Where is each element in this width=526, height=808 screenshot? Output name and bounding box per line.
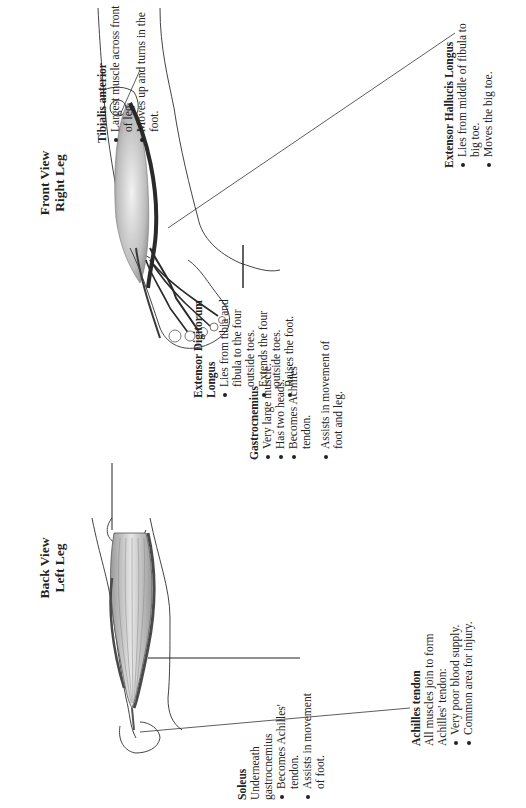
extensor-hallucis-longus-bullets: Lies from middle of fibula to big toe. M… (456, 8, 495, 168)
hallucis-leader-line (168, 33, 455, 228)
gastrocnemius-bullets: Very large muscle. Has two heads. Become… (261, 332, 345, 460)
back-view-title-line1: Back View (37, 537, 52, 598)
achilles-tendon-bullets: Very poor blood supply. Common area for … (449, 606, 475, 746)
bullet-item: Largest muscle across front of leg. (109, 3, 135, 143)
bullet-item: Becomes Achilles' tendon. (287, 332, 313, 460)
bullet-item: Common area for injury. (462, 606, 475, 746)
label-tibialis-anterior: Tibialis anterior Largest muscle across … (96, 3, 161, 143)
bullet-item: Lies from middle of fibula to big toe. (456, 8, 482, 168)
bullet-item: Has two heads. (274, 332, 287, 460)
front-view-title: Front View Right Leg (37, 133, 67, 233)
soleus-name: Soleus (236, 682, 249, 800)
bullet-item: Assists in movement of foot and leg. (319, 332, 345, 460)
label-gastrocnemius: Gastrocnemius Very large muscle. Has two… (248, 332, 345, 460)
extensor-hallucis-longus-name: Extensor Hallucis Longus (443, 8, 456, 168)
achilles-tendon-description: All muscles join to form Achilles' tendo… (423, 606, 449, 746)
tibialis-anterior-name: Tibialis anterior (96, 3, 109, 143)
achilles-tendon-name: Achilles tendon (410, 606, 423, 746)
front-view-title-line1: Front View (37, 151, 52, 216)
label-achilles-tendon: Achilles tendon All muscles join to form… (410, 606, 475, 746)
leg-muscle-diagram: Front View Right Leg Back View Left Leg … (0, 0, 526, 808)
bullet-item: Assists in movement of foot. (301, 682, 327, 800)
gastrocnemius-name: Gastrocnemius (248, 332, 261, 460)
tibialis-anterior-bullets: Largest muscle across front of leg. Move… (109, 3, 161, 143)
extensor-digitorum-longus-name: Extensor Digitorum Longus (192, 283, 218, 398)
back-view-title: Back View Left Leg (37, 518, 67, 618)
label-soleus: Soleus Underneath gastrocnemius Becomes … (236, 682, 327, 800)
bullet-item: Becomes Achilles' tendon. (275, 682, 301, 800)
bullet-item: Very large muscle. (261, 332, 274, 460)
label-extensor-hallucis-longus: Extensor Hallucis Longus Lies from middl… (443, 8, 495, 168)
bullet-item: Moves the big toe. (482, 8, 495, 168)
soleus-description: Underneath gastrocnemius (249, 682, 275, 800)
bullet-item: Moves up and turns in the foot. (135, 3, 161, 143)
bullet-item: Very poor blood supply. (449, 606, 462, 746)
soleus-bullets: Becomes Achilles' tendon. Assists in mov… (275, 682, 327, 800)
front-view-title-line2: Right Leg (52, 154, 67, 211)
back-view-title-line2: Left Leg (52, 543, 67, 592)
